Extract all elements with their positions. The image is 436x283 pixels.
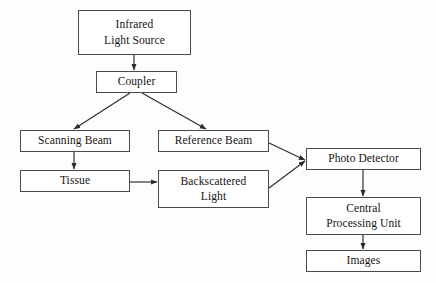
node-coupler[interactable]: Coupler [96,71,177,93]
connector-backscattered-light-to-photo-detector [269,161,305,188]
node-infrared-light-source[interactable]: Infrared Light Source [78,10,191,55]
node-reference-beam[interactable]: Reference Beam [158,130,269,152]
node-label: Images [307,253,420,268]
connector-coupler-to-scanning-beam [74,93,130,129]
node-label: Coupler [97,74,176,89]
node-images[interactable]: Images [306,250,421,272]
node-label: Reference Beam [159,133,268,148]
node-label: Photo Detector [307,151,420,166]
node-label: Scanning Beam [21,133,129,148]
connector-coupler-to-reference-beam [142,93,206,129]
node-scanning-beam[interactable]: Scanning Beam [20,130,130,152]
node-label: Central Processing Unit [307,201,420,232]
node-backscattered-light[interactable]: Backscattered Light [158,170,269,208]
node-label: Infrared Light Source [79,17,190,48]
node-label: Tissue [21,173,129,188]
node-tissue[interactable]: Tissue [20,170,130,192]
diagram-canvas: Infrared Light Source Coupler Scanning B… [0,0,436,283]
connector-reference-beam-to-photo-detector [269,143,305,160]
node-central-processing-unit[interactable]: Central Processing Unit [306,197,421,235]
node-photo-detector[interactable]: Photo Detector [306,148,421,170]
node-label: Backscattered Light [159,174,268,205]
